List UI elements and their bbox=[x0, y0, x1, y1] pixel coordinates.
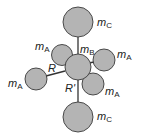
atom-right-a bbox=[93, 49, 115, 71]
label-bottom-c: mC bbox=[97, 110, 112, 124]
molecule-diagram: mC mC mB mA mA mA mA R R' bbox=[0, 0, 142, 140]
label-bond-r: R bbox=[48, 62, 56, 74]
label-right-a: mA bbox=[117, 48, 132, 62]
label-bond-r-prime: R' bbox=[65, 82, 76, 94]
atom-left-a bbox=[25, 68, 47, 90]
atom-top-c bbox=[63, 7, 93, 37]
label-lower-right-a: mA bbox=[105, 85, 120, 99]
label-upper-left-a: mA bbox=[35, 40, 50, 54]
atom-bottom-c bbox=[63, 102, 93, 132]
label-top-c: mC bbox=[97, 16, 112, 30]
atom-center-b bbox=[65, 54, 91, 80]
label-left-a: mA bbox=[8, 77, 23, 91]
label-center-b: mB bbox=[80, 43, 95, 57]
